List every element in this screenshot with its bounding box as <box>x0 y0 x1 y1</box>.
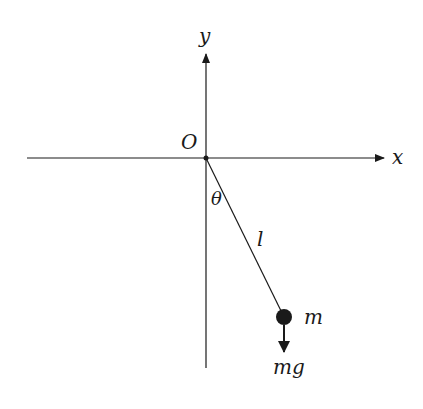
angle-label: θ <box>211 190 222 208</box>
mass-label: m <box>304 307 323 327</box>
y-axis-label: y <box>199 26 210 46</box>
pendulum-string <box>206 158 284 317</box>
x-axis-label: x <box>392 147 403 167</box>
length-label: l <box>257 229 263 249</box>
force-label: mg <box>273 357 305 377</box>
pendulum-bob <box>276 309 292 325</box>
origin-label: O <box>181 132 197 152</box>
